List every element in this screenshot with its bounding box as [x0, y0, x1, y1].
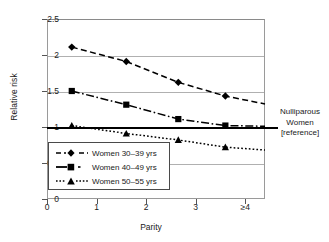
- legend-symbol-triangle: [54, 175, 90, 187]
- y-tick-label: 2.5: [19, 14, 59, 24]
- gridline: [48, 56, 264, 57]
- legend-label: Women 40–49 yrs: [90, 163, 157, 172]
- legend-item: Women 30–39 yrs: [49, 146, 169, 160]
- legend-item: Women 40–49 yrs: [49, 160, 169, 174]
- reference-annotation: Nulliparous Women [reference]: [272, 107, 328, 139]
- x-tick-label: 1: [77, 202, 117, 212]
- legend-item: Women 50–55 yrs: [49, 174, 169, 188]
- annotation-line-2: Women: [272, 118, 328, 129]
- y-axis-title: Relative risk: [9, 57, 19, 137]
- x-tick-label: ≥4: [225, 202, 265, 212]
- legend-label: Women 50–55 yrs: [90, 177, 157, 186]
- legend-symbol-diamond: [54, 147, 90, 159]
- annotation-line-1: Nulliparous: [272, 107, 328, 118]
- reference-line: [47, 127, 278, 129]
- legend-symbol-square: [54, 161, 90, 173]
- y-tick-label: 2: [19, 50, 59, 60]
- x-axis-title: Parity: [47, 222, 255, 232]
- gridline: [48, 92, 264, 93]
- chart-figure: Relative risk Parity 00.511.522.5 0123≥4…: [0, 0, 329, 242]
- x-tick-label: 2: [126, 202, 166, 212]
- x-tick-label: 0: [27, 202, 67, 212]
- y-tick-label: 1.5: [19, 86, 59, 96]
- x-tick-label: 3: [176, 202, 216, 212]
- chart-legend: Women 30–39 yrs Women 40–49 yrs Women 50…: [48, 142, 170, 190]
- annotation-line-3: [reference]: [272, 128, 328, 139]
- legend-label: Women 30–39 yrs: [90, 149, 157, 158]
